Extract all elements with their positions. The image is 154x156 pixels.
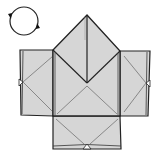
origami-diagram: Origami fold step: [0, 0, 154, 156]
rotate-arrow-icon: [8, 7, 40, 35]
left-flap: [19, 50, 53, 116]
right-flap: [120, 51, 150, 116]
center-square: [53, 15, 120, 116]
bottom-flap: [53, 116, 121, 149]
